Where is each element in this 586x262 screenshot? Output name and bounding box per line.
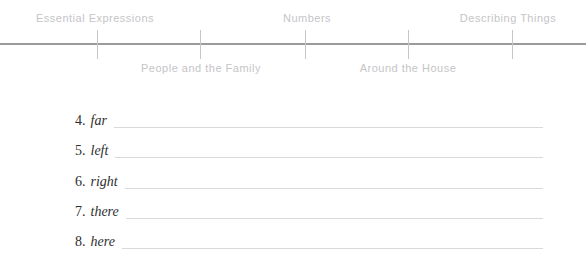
worksheet-item: 4. far	[75, 109, 543, 130]
section-label-describing-things: Describing Things	[460, 12, 556, 24]
answer-blank[interactable]	[114, 127, 543, 128]
item-word: here	[91, 232, 115, 251]
section-label-numbers: Numbers	[283, 12, 331, 24]
item-word: left	[91, 141, 109, 160]
timeline-line	[0, 43, 586, 45]
timeline-tick	[512, 30, 513, 59]
section-timeline: Essential Expressions Numbers Describing…	[0, 0, 586, 88]
worksheet-item: 5. left	[75, 139, 543, 160]
worksheet-item: 8. here	[75, 230, 543, 251]
timeline-tick	[97, 30, 98, 59]
section-label-around-the-house: Around the House	[360, 62, 457, 74]
item-number: 5.	[75, 141, 86, 160]
section-label-essential-expressions: Essential Expressions	[36, 12, 154, 24]
item-number: 4.	[75, 111, 86, 130]
item-word: far	[91, 111, 107, 130]
timeline-tick	[408, 30, 409, 59]
item-word: right	[91, 172, 118, 191]
item-number: 7.	[75, 202, 86, 221]
answer-blank[interactable]	[126, 218, 543, 219]
item-number: 8.	[75, 232, 86, 251]
answer-blank[interactable]	[125, 188, 543, 189]
answer-blank[interactable]	[115, 157, 543, 158]
timeline-tick	[305, 30, 306, 59]
worksheet-item: 7. there	[75, 200, 543, 221]
item-word: there	[91, 202, 119, 221]
timeline-tick	[200, 30, 201, 59]
worksheet-item: 6. right	[75, 170, 543, 191]
worksheet-page: Essential Expressions Numbers Describing…	[0, 0, 586, 262]
answer-blank[interactable]	[122, 248, 543, 249]
item-number: 6.	[75, 172, 86, 191]
section-label-people-and-the-family: People and the Family	[141, 62, 261, 74]
